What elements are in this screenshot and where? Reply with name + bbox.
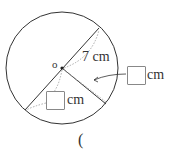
pointer-arrow-line xyxy=(94,74,126,80)
unit-label-diameter: cm xyxy=(67,93,84,107)
diameter-guide-arc-end xyxy=(26,103,46,110)
center-point xyxy=(60,66,63,69)
answer-box-diameter[interactable] xyxy=(46,91,65,110)
answer-box-radius[interactable] xyxy=(127,66,146,85)
answer-parenthesis: ( xyxy=(78,133,83,147)
unit-label-radius: cm xyxy=(147,68,164,82)
radius-label: 7 cm xyxy=(82,50,110,64)
center-label: o xyxy=(52,57,58,71)
